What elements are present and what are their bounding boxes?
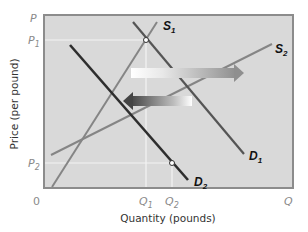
x-tick-q2: Q2 bbox=[165, 195, 179, 210]
y-tick-p2: P2 bbox=[28, 157, 40, 172]
x-axis-origin-label: 0 bbox=[33, 195, 40, 208]
y-tick-p1: P1 bbox=[28, 34, 40, 49]
x-tick-q1: Q1 bbox=[139, 195, 153, 210]
equilibrium-point-1 bbox=[144, 38, 149, 43]
y-axis-title: Price (per pound) bbox=[8, 59, 20, 150]
supply-demand-chart: S1 S2 D1 D2 P P1 P2 0 Q1 Q2 Q Quantity (… bbox=[0, 0, 308, 232]
equilibrium-point-2 bbox=[170, 161, 175, 166]
y-axis-end-label: P bbox=[30, 12, 37, 25]
x-axis-end-label: Q bbox=[284, 195, 293, 208]
x-axis-title: Quantity (pounds) bbox=[120, 212, 215, 224]
